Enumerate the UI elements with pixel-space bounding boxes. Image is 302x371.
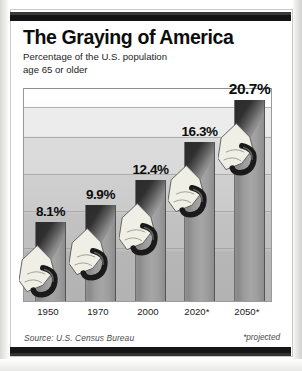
chart-title: The Graying of America (23, 27, 273, 47)
bars-layer: 8.1%9.9%12.4%16.3%20.7% (24, 89, 271, 301)
infographic-page: The Graying of America Percentage of the… (0, 0, 302, 371)
value-label-2000: 12.4% (113, 163, 188, 177)
bottom-rule (10, 347, 291, 356)
x-tick-1950: 1950 (23, 306, 73, 317)
top-rule (10, 12, 291, 21)
bar-top-shadow (36, 222, 65, 268)
scan-edge-right (292, 0, 302, 371)
value-label-1950: 8.1% (13, 205, 88, 219)
bar-body (184, 142, 215, 301)
bar-1970 (85, 205, 116, 301)
source-note: Source: U.S. Census Bureau (24, 333, 134, 343)
bar-top-shadow (185, 142, 214, 188)
chart-header: The Graying of America Percentage of the… (23, 27, 273, 76)
x-tick-2000: 2000 (123, 306, 173, 317)
x-tick-2050: 2050* (222, 306, 272, 317)
bar-2020 (184, 142, 215, 301)
x-axis: 1950197020002020*2050* (23, 306, 272, 322)
value-label-1970: 9.9% (63, 188, 138, 202)
bar-2050 (234, 100, 265, 301)
projected-note: *projected (243, 333, 280, 342)
top-rule-gloss (10, 12, 291, 15)
value-label-2050: 20.7% (212, 81, 287, 97)
scan-edge-left (0, 0, 9, 371)
bar-top-shadow (136, 180, 165, 226)
bar-body (135, 180, 166, 301)
bar-body (234, 100, 265, 301)
bottom-rule-gloss (10, 353, 291, 356)
bar-2000 (135, 180, 166, 301)
x-tick-2020: 2020* (172, 306, 222, 317)
bar-body (35, 222, 66, 301)
chart-subtitle: Percentage of the U.S. populationage 65 … (23, 51, 198, 76)
bar-top-shadow (235, 100, 264, 146)
bar-1950 (35, 222, 66, 301)
chart-subtitle-line2: age 65 or older (23, 64, 88, 75)
chart-subtitle-line1: Percentage of the U.S. population (23, 51, 167, 62)
x-tick-1970: 1970 (73, 306, 123, 317)
bar-top-shadow (86, 205, 115, 251)
bar-body (85, 205, 116, 301)
plot-area: 8.1%9.9%12.4%16.3%20.7% (23, 88, 272, 302)
scan-edge-bottom (0, 359, 302, 371)
value-label-2020: 16.3% (162, 125, 237, 139)
